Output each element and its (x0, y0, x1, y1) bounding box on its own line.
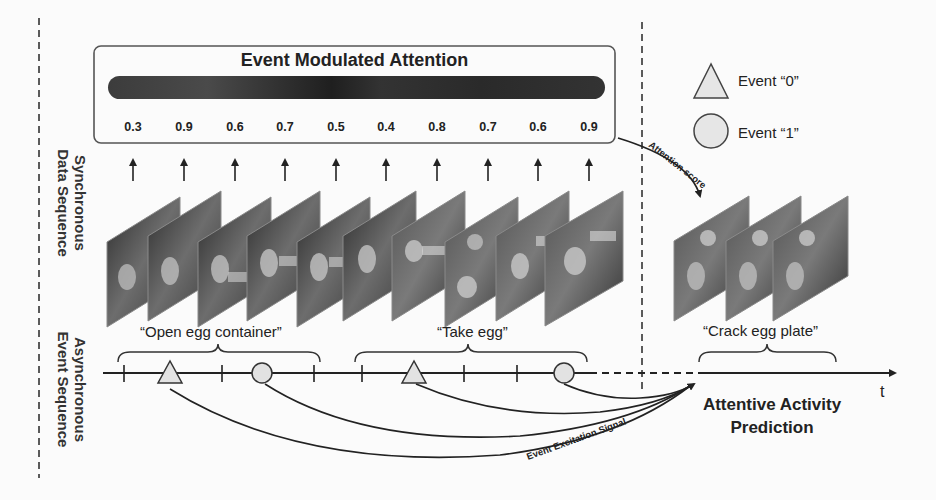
side-label-line: Event Sequence (55, 312, 72, 467)
segment-label-open-egg-container: “Open egg container” (140, 323, 282, 340)
synchronous-data-sequence-label: Synchronous Data Sequence (55, 143, 89, 263)
brace-open-egg-container (118, 344, 320, 362)
side-label-line: Synchronous (72, 143, 89, 263)
attentive-activity-prediction-label: Attentive Activity Prediction (690, 393, 854, 439)
attention-score-value: 0.6 (523, 120, 553, 134)
attention-score-value: 0.5 (321, 120, 351, 134)
attention-score-value: 0.9 (169, 120, 199, 134)
future-frames (674, 196, 848, 321)
attention-panel-title: Event Modulated Attention (94, 50, 615, 71)
attention-score-value: 0.9 (574, 120, 604, 134)
event-1-circle-marker (554, 363, 574, 383)
excitation-signal-annotation: Event Excitation Signal (525, 416, 627, 462)
asynchronous-event-sequence-label: Asynchronous Event Sequence (55, 312, 89, 467)
brace-crack-egg-plate (699, 344, 836, 362)
segment-braces (118, 344, 836, 362)
segment-label-crack-egg-plate: “Crack egg plate” (703, 322, 818, 339)
prediction-line: Prediction (690, 416, 854, 439)
time-axis-label: t (880, 383, 884, 401)
score-arrows (133, 160, 589, 181)
segment-label-take-egg: “Take egg” (437, 323, 508, 340)
side-label-line: Asynchronous (72, 312, 89, 467)
prediction-line: Attentive Activity (690, 393, 854, 416)
attention-score-value: 0.7 (473, 120, 503, 134)
event-1-circle-marker (252, 363, 272, 383)
legend-event-0-label: Event “0” (738, 72, 799, 89)
video-frames (107, 191, 623, 327)
attention-score-value: 0.3 (118, 120, 148, 134)
attention-score-value: 0.8 (422, 120, 452, 134)
attention-score-value: 0.7 (270, 120, 300, 134)
attention-score-value: 0.6 (220, 120, 250, 134)
attention-bar (108, 76, 605, 99)
event-0-triangle-marker (402, 361, 426, 383)
triangle-icon (694, 64, 728, 98)
side-label-line: Data Sequence (55, 143, 72, 263)
brace-take-egg (355, 344, 587, 362)
attention-score-annotation: Attention score (647, 139, 709, 191)
attention-score-value: 0.4 (371, 120, 401, 134)
circle-icon (694, 114, 728, 148)
event-0-triangle-marker (158, 361, 182, 383)
legend-event-1-label: Event “1” (738, 124, 799, 141)
